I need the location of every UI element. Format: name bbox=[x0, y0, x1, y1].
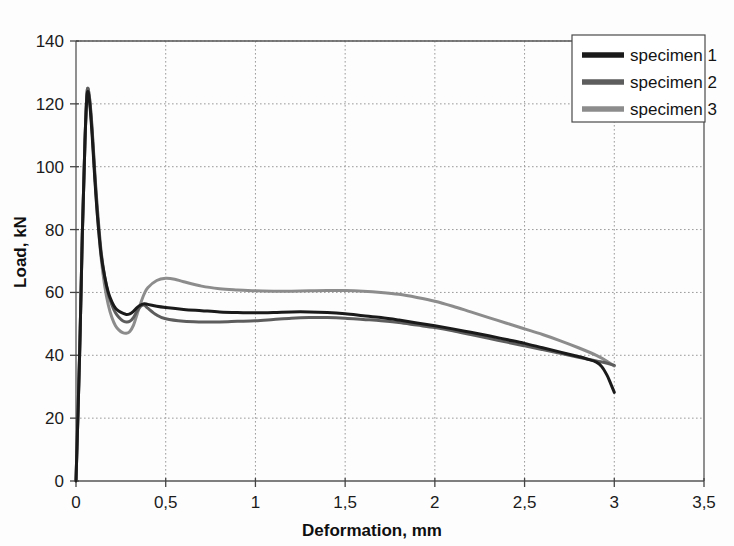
x-tick-label: 0,5 bbox=[154, 493, 178, 512]
x-tick-label: 2,5 bbox=[513, 493, 537, 512]
y-tick-label: 0 bbox=[55, 472, 64, 491]
y-tick-label: 140 bbox=[36, 32, 64, 51]
y-tick-label: 100 bbox=[36, 158, 64, 177]
x-axis-ticks bbox=[76, 478, 704, 487]
x-tick-label: 1 bbox=[251, 493, 260, 512]
chart-canvas: 020406080100120140 00,511,522,533,5 spec… bbox=[0, 0, 734, 546]
x-tick-label: 0 bbox=[71, 493, 80, 512]
legend-label-1: specimen 1 bbox=[630, 46, 717, 65]
y-axis-tick-labels: 020406080100120140 bbox=[36, 32, 64, 491]
x-tick-label: 1,5 bbox=[333, 493, 357, 512]
y-axis-title: Load, kN bbox=[11, 216, 30, 288]
y-tick-label: 20 bbox=[45, 409, 64, 428]
x-axis-tick-labels: 00,511,522,533,5 bbox=[71, 493, 716, 512]
x-tick-label: 3 bbox=[610, 493, 619, 512]
chart-legend: specimen 1specimen 2specimen 3 bbox=[572, 35, 717, 122]
y-tick-label: 80 bbox=[45, 221, 64, 240]
load-deformation-chart: 020406080100120140 00,511,522,533,5 spec… bbox=[0, 0, 734, 546]
legend-label-2: specimen 2 bbox=[630, 73, 717, 92]
y-tick-label: 40 bbox=[45, 346, 64, 365]
y-tick-label: 120 bbox=[36, 95, 64, 114]
legend-label-3: specimen 3 bbox=[630, 100, 717, 119]
x-axis-title: Deformation, mm bbox=[302, 521, 442, 540]
x-tick-label: 2 bbox=[430, 493, 439, 512]
vertical-gridlines bbox=[166, 41, 615, 481]
x-tick-label: 3,5 bbox=[692, 493, 716, 512]
y-tick-label: 60 bbox=[45, 283, 64, 302]
